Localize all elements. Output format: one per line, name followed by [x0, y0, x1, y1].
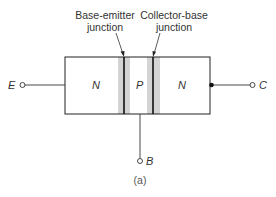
collector-terminal-label: C: [259, 79, 267, 91]
base-emitter-label-line1: Base-emitter: [74, 9, 136, 21]
base-emitter-label-line2: junction: [74, 21, 136, 33]
base-emitter-arrowhead: [121, 51, 125, 57]
figure-caption: (a): [130, 174, 150, 186]
base-terminal-label: B: [146, 155, 153, 167]
collector-base-label: Collector-base junction: [138, 9, 210, 33]
base-region-label: P: [136, 79, 143, 91]
collector-region-label: N: [178, 79, 186, 91]
base-emitter-pointer: [116, 33, 123, 54]
collector-base-pointer: [154, 33, 160, 54]
collector-contact-dot: [209, 83, 214, 88]
emitter-terminal: [20, 83, 25, 88]
collector-base-label-line2: junction: [138, 21, 210, 33]
base-terminal: [138, 159, 143, 164]
collector-base-label-line1: Collector-base: [138, 9, 210, 21]
collector-base-arrowhead: [153, 51, 157, 57]
emitter-region-label: N: [92, 79, 100, 91]
base-emitter-label: Base-emitter junction: [74, 9, 136, 33]
collector-terminal: [250, 83, 255, 88]
emitter-terminal-label: E: [8, 79, 15, 91]
